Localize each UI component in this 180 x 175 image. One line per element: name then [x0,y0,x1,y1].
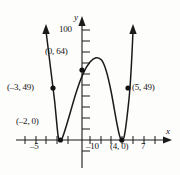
y-tick-label-100: 100 [59,25,72,34]
point-neg2-0 [58,137,63,142]
point-0-64 [79,67,84,72]
x-tick-label-neg5: –5 [30,142,39,151]
y-axis-label: y [74,13,78,22]
point-label-neg2-0: (–2, 0) [16,117,39,126]
point-neg3-49 [50,85,55,90]
point-label-5-49: (5, 49) [132,83,155,92]
point-label-4-0: (4, 0) [110,142,128,151]
graph-figure: y x 100 –10 –5 7 (0, 64) (–3, 49) (5, 49… [0,0,180,175]
y-axis-ticks [82,30,90,151]
x-tick-label-7: 7 [141,142,145,151]
x-axis-label: x [166,127,170,136]
point-5-49 [125,85,130,90]
x-tick-label-neg10: –10 [86,142,99,151]
y-axis [78,16,85,168]
point-label-neg3-49: (–3, 49) [7,83,34,92]
point-label-0-64: (0, 64) [45,47,68,56]
